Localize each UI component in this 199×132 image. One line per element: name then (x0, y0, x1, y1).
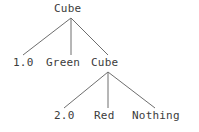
edge-cube-two-to-weight-two (64, 72, 108, 108)
node-green: Green (46, 57, 80, 69)
node-weight-two: 2.0 (54, 110, 74, 122)
node-nothing: Nothing (132, 110, 180, 122)
edge-root-to-weight-one (23, 18, 71, 55)
node-cube-two: Cube (91, 57, 118, 69)
node-red: Red (94, 110, 114, 122)
edge-cube-two-to-nothing (108, 72, 155, 108)
node-weight-one: 1.0 (13, 57, 33, 69)
parse-tree-figure: Cube 1.0 Green Cube 2.0 Red Nothing (0, 0, 199, 132)
node-root-cube: Cube (54, 3, 81, 15)
edge-root-to-cube-two (71, 18, 108, 55)
